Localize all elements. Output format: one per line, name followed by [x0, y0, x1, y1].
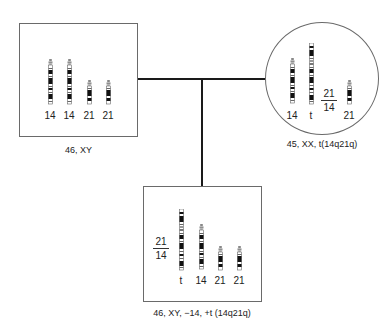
father-chromosome-21: [106, 80, 111, 105]
child-translocation-fraction: 21 14: [153, 236, 169, 261]
child-chromosome-translocation: [179, 209, 184, 271]
mother-chromosome-label: t: [301, 110, 321, 121]
fraction-numerator: 21: [321, 88, 337, 101]
mother-karyotype-label: 45, XX, t(14q21q): [262, 139, 382, 149]
mother-chromosome-21: [347, 80, 352, 105]
father-chromosome-14: [67, 59, 72, 105]
father-karyotype-label: 46, XY: [19, 145, 138, 155]
child-chromosome-label: 21: [210, 275, 230, 286]
child-chromosome-21: [237, 246, 242, 271]
child-chromosome-label: 14: [191, 275, 211, 286]
father-chromosome-label: 21: [98, 110, 118, 121]
fraction-numerator: 21: [153, 236, 169, 249]
father-chromosome-label: 21: [79, 110, 99, 121]
child-chromosome-label: 21: [229, 275, 249, 286]
child-chromosome-21: [218, 246, 223, 271]
fraction-denominator: 14: [321, 101, 337, 113]
child-chromosome-14: [199, 224, 204, 270]
fraction-denominator: 14: [153, 249, 169, 261]
mother-chromosome-14: [290, 58, 295, 104]
father-chromosome-14: [48, 59, 53, 105]
mother-chromosome-translocation: [309, 43, 314, 105]
child-karyotype-label: 46, XY, −14, +t (14q21q): [132, 308, 272, 318]
father-chromosome-label: 14: [40, 110, 60, 121]
mother-chromosome-label: 14: [282, 110, 302, 121]
mother-chromosome-label: 21: [339, 110, 359, 121]
father-chromosome-label: 14: [59, 110, 79, 121]
descent-line: [201, 79, 203, 186]
child-chromosome-label: t: [171, 275, 191, 286]
father-chromosome-21: [87, 80, 92, 105]
mother-translocation-fraction: 21 14: [321, 88, 337, 113]
